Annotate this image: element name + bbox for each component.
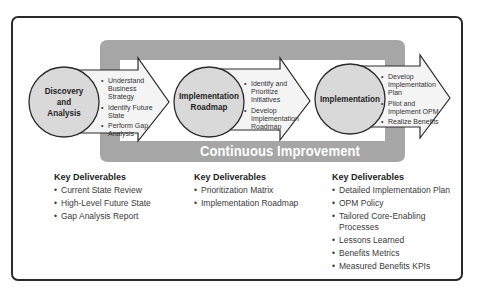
phase-1-title-line: and <box>33 97 96 108</box>
activity-item: Develop Implementation Plan <box>381 73 441 98</box>
phase-1-title-line: Discovery <box>33 86 96 97</box>
activity-item: Realize Benefits <box>381 118 441 126</box>
deliverable-item: Lessons Learned <box>332 235 452 246</box>
phase-2-title-line: Roadmap <box>174 102 244 113</box>
phase-3-deliverables: Key Deliverables Detailed Implementation… <box>332 172 452 274</box>
phase-1-title-line: Analysis <box>33 108 96 119</box>
activity-item: Understand Business Strategy <box>101 77 163 102</box>
deliverable-item: Benefits Metrics <box>332 248 452 259</box>
activity-item: Perform Gap Analysis <box>101 122 163 138</box>
phase-1-activities: Understand Business Strategy Identify Fu… <box>101 77 163 140</box>
deliverable-item: OPM Policy <box>332 198 452 209</box>
deliverables-heading: Key Deliverables <box>194 172 324 182</box>
deliverables-heading: Key Deliverables <box>54 172 184 182</box>
deliverable-item: Gap Analysis Report <box>54 211 184 222</box>
activity-item: Identify Future State <box>101 104 163 120</box>
deliverable-item: Implementation Roadmap <box>194 198 324 209</box>
phase-3-activities: Develop Implementation Plan Pilot and Im… <box>381 73 441 128</box>
deliverable-item: Tailored Core-Enabling Processes <box>332 211 452 233</box>
phase-2-title: Implementation Roadmap <box>174 91 244 113</box>
phase-2-activities: Identify and Prioritize Initiatives Deve… <box>244 80 306 133</box>
deliverable-item: Detailed Implementation Plan <box>332 185 452 196</box>
phase-3-title-line: Implementation <box>316 94 384 105</box>
deliverable-item: Measured Benefits KPIs <box>332 261 452 272</box>
deliverable-item: Prioritization Matrix <box>194 185 324 196</box>
deliverables-heading: Key Deliverables <box>332 172 452 182</box>
phase-2-deliverables: Key Deliverables Prioritization Matrix I… <box>194 172 324 211</box>
deliverable-item: High-Level Future State <box>54 198 184 209</box>
phase-3-title: Implementation <box>316 94 384 105</box>
activity-item: Identify and Prioritize Initiatives <box>244 80 306 105</box>
deliverable-item: Current State Review <box>54 185 184 196</box>
activity-item: Pilot and Implement OPM <box>381 100 441 116</box>
phase-2-title-line: Implementation <box>174 91 244 102</box>
phase-1-deliverables: Key Deliverables Current State Review Hi… <box>54 172 184 224</box>
phase-1-title: Discovery and Analysis <box>33 86 96 119</box>
continuous-improvement-label: Continuous Improvement <box>186 143 375 159</box>
activity-item: Develop Implementation Roadmap <box>244 107 306 132</box>
